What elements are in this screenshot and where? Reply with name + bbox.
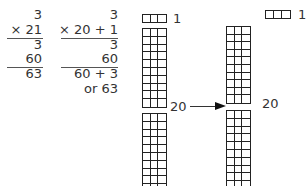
multiplicand: 3 [0,8,42,22]
partial-product-1: 3 [55,38,118,52]
arrow-shaft [190,106,218,107]
tens-block [142,113,167,186]
partial-product-2: 60 [55,52,118,66]
multiplier: × 20 + 1 [55,23,118,37]
result: 63 [0,67,42,81]
tens-block [226,26,251,104]
ones-strip [265,10,291,19]
result-alt: or 63 [55,82,118,96]
tens-label: 20 [262,97,279,111]
ones-label: 1 [298,8,306,22]
multiplier: × 21 [0,23,42,37]
tens-block [226,110,251,186]
ones-strip [142,14,167,23]
arrowhead [215,102,226,110]
tens-block [142,28,167,108]
tens-label: 20 [170,100,187,114]
multiplicand: 3 [55,8,118,22]
ones-label: 1 [173,12,181,26]
partial-product-2: 60 [0,52,42,66]
result: 60 + 3 [55,67,118,81]
partial-product-1: 3 [0,38,42,52]
